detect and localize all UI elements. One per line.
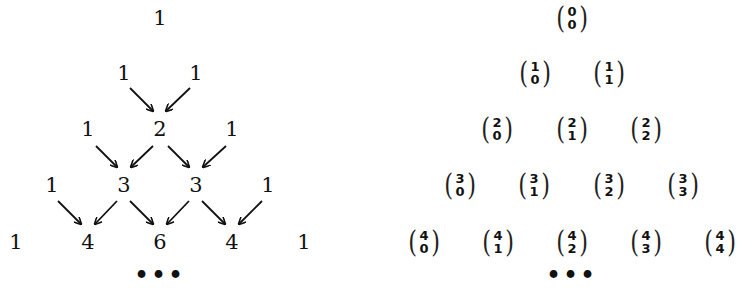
right-paren-icon: ): [616, 58, 625, 88]
left-value-r4-c3: 4: [217, 231, 247, 253]
binom-k: 3: [641, 242, 650, 255]
left-paren-icon: (: [630, 114, 639, 144]
left-value-r2-c0: 1: [73, 118, 103, 140]
binom-k: 2: [604, 185, 613, 198]
binom-4-1: ( 41 ): [481, 227, 515, 257]
left-paren-icon: (: [481, 114, 490, 144]
right-paren-icon: ): [579, 3, 588, 33]
binom-3-2: ( 32 ): [592, 170, 626, 200]
left-paren-icon: (: [556, 3, 565, 33]
left-paren-icon: (: [556, 114, 565, 144]
left-value-r3-c2: 3: [181, 174, 211, 196]
right-paren-icon: ): [579, 227, 588, 257]
left-value-r4-c0: 1: [1, 231, 31, 253]
left-value-r3-c1: 3: [109, 174, 139, 196]
left-paren-icon: (: [482, 227, 491, 257]
left-paren-icon: (: [556, 227, 565, 257]
binom-4-0: ( 40 ): [407, 227, 441, 257]
binom-k: 1: [493, 242, 502, 255]
binom-4-4: ( 44 ): [703, 227, 737, 257]
right-paren-icon: ): [579, 114, 588, 144]
binom-4-2: ( 42 ): [555, 227, 589, 257]
left-paren-icon: (: [630, 227, 639, 257]
left-paren-icon: (: [593, 58, 602, 88]
binom-k: 2: [567, 242, 576, 255]
left-value-r3-c3: 1: [253, 174, 283, 196]
right-paren-icon: ): [616, 170, 625, 200]
binom-k: 1: [604, 73, 613, 86]
binom-4-3: ( 43 ): [629, 227, 663, 257]
binom-k: 0: [455, 185, 464, 198]
right-paren-icon: ): [505, 227, 514, 257]
left-value-r2-c2: 1: [217, 118, 247, 140]
binom-2-1: ( 21 ): [555, 114, 589, 144]
left-value-r2-c1: 2: [145, 118, 175, 140]
binom-k: 3: [678, 185, 687, 198]
right-paren-icon: ): [727, 227, 736, 257]
right-paren-icon: ): [431, 227, 440, 257]
right-paren-icon: ): [653, 114, 662, 144]
left-paren-icon: (: [408, 227, 417, 257]
left-value-r4-c2: 6: [145, 231, 175, 253]
binom-1-1: ( 11 ): [592, 58, 626, 88]
left-continuation-dots: •••: [134, 261, 185, 287]
right-paren-icon: ): [542, 58, 551, 88]
right-paren-icon: ): [541, 170, 550, 200]
binom-3-1: ( 31 ): [517, 170, 551, 200]
binom-2-2: ( 22 ): [629, 114, 663, 144]
left-value-r0-c0: 1: [145, 7, 175, 29]
binom-k: 4: [715, 242, 724, 255]
binom-k: 1: [567, 129, 576, 142]
binom-3-0: ( 30 ): [443, 170, 477, 200]
right-continuation-dots: •••: [546, 261, 597, 287]
binom-k: 0: [567, 18, 576, 31]
binom-3-3: ( 33 ): [666, 170, 700, 200]
binom-2-0: ( 20 ): [480, 114, 514, 144]
left-value-r4-c1: 4: [73, 231, 103, 253]
left-value-r1-c1: 1: [181, 62, 211, 84]
right-paren-icon: ): [504, 114, 513, 144]
left-paren-icon: (: [444, 170, 453, 200]
pascal-triangle-diagram: 1 1 1 1 2 1 1 3 3 1 1 4 6 4 1 ••• ( 00 )…: [0, 0, 755, 295]
binom-1-0: ( 10 ): [518, 58, 552, 88]
right-paren-icon: ): [653, 227, 662, 257]
binom-k: 0: [419, 242, 428, 255]
binom-k: 1: [529, 185, 538, 198]
left-value-r1-c0: 1: [109, 62, 139, 84]
left-paren-icon: (: [519, 58, 528, 88]
left-paren-icon: (: [593, 170, 602, 200]
right-paren-icon: ): [690, 170, 699, 200]
binom-k: 0: [530, 73, 539, 86]
left-paren-icon: (: [667, 170, 676, 200]
right-paren-icon: ): [467, 170, 476, 200]
left-paren-icon: (: [704, 227, 713, 257]
left-paren-icon: (: [518, 170, 527, 200]
left-value-r4-c4: 1: [289, 231, 319, 253]
binom-0-0: ( 00 ): [555, 3, 589, 33]
left-value-r3-c0: 1: [37, 174, 67, 196]
binom-k: 2: [641, 129, 650, 142]
binom-k: 0: [492, 129, 501, 142]
